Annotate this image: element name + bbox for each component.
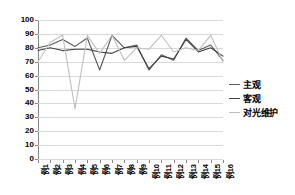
x-axis-tick-label: 例15: [214, 164, 222, 179]
chart-legend: 主观客观对光维护: [229, 78, 293, 120]
x-axis-tick-label: 例11: [165, 164, 173, 179]
y-axis-tick-label: 100: [0, 16, 34, 24]
legend-swatch: [229, 98, 240, 99]
y-axis-tick-label: 0: [0, 155, 34, 163]
x-axis-tick-label: 例9: [140, 164, 148, 175]
x-axis-tick: [38, 160, 39, 163]
x-axis-tick-label: 例3: [66, 164, 74, 175]
x-axis-tick: [137, 160, 138, 163]
x-axis-tick-label: 例7: [116, 164, 124, 175]
x-axis-tick-label: 例5: [91, 164, 99, 175]
x-axis-tick-label: 例6: [103, 164, 111, 175]
plot-area: [38, 20, 223, 159]
x-axis-tick-label: 例10: [153, 164, 161, 179]
y-axis-tick-label: 40: [0, 99, 34, 107]
x-axis-tick: [124, 160, 125, 163]
line-chart: 0102030405060708090100 例1例2例3例4例5例6例7例8例…: [0, 0, 295, 195]
x-axis-tick: [198, 160, 199, 163]
y-axis-tick-label: 30: [0, 113, 34, 121]
x-axis-tick: [112, 160, 113, 163]
y-axis-tick-label: 10: [0, 141, 34, 149]
x-axis-tick-label: 例16: [227, 164, 235, 179]
series-lines: [38, 20, 223, 159]
legend-label: 对光维护: [243, 106, 278, 119]
x-axis-tick-label: 例1: [42, 164, 50, 175]
x-axis-tick: [211, 160, 212, 163]
x-axis-tick: [161, 160, 162, 163]
y-axis-tick-label: 50: [0, 86, 34, 94]
x-axis-tick-label: 例14: [202, 164, 210, 179]
x-axis-tick-label: 例8: [128, 164, 136, 175]
y-axis-tick-label: 70: [0, 58, 34, 66]
x-axis-tick: [50, 160, 51, 163]
legend-label: 主观: [243, 78, 261, 91]
x-axis-tick: [223, 160, 224, 163]
y-axis-labels: 0102030405060708090100: [0, 20, 34, 159]
x-axis-tick: [149, 160, 150, 163]
x-axis-tick-label: 例12: [177, 164, 185, 179]
y-axis-tick-label: 80: [0, 44, 34, 52]
y-axis-tick-label: 90: [0, 30, 34, 38]
x-axis-labels: 例1例2例3例4例5例6例7例8例9例10例11例12例13例14例15例16: [38, 160, 223, 195]
legend-item[interactable]: 对光维护: [229, 106, 293, 119]
legend-swatch: [229, 112, 240, 113]
x-axis-tick: [100, 160, 101, 163]
legend-label: 客观: [243, 92, 261, 105]
legend-item[interactable]: 客观: [229, 92, 293, 105]
x-axis-tick: [186, 160, 187, 163]
x-axis-tick: [87, 160, 88, 163]
y-axis-tick-label: 60: [0, 72, 34, 80]
x-axis-tick: [63, 160, 64, 163]
y-axis-tick-label: 20: [0, 127, 34, 135]
x-axis-tick-label: 例2: [54, 164, 62, 175]
x-axis-tick-label: 例13: [190, 164, 198, 179]
x-axis-tick-label: 例4: [79, 164, 87, 175]
legend-item[interactable]: 主观: [229, 78, 293, 91]
x-axis-tick: [75, 160, 76, 163]
legend-swatch: [229, 84, 240, 85]
x-axis-tick: [174, 160, 175, 163]
